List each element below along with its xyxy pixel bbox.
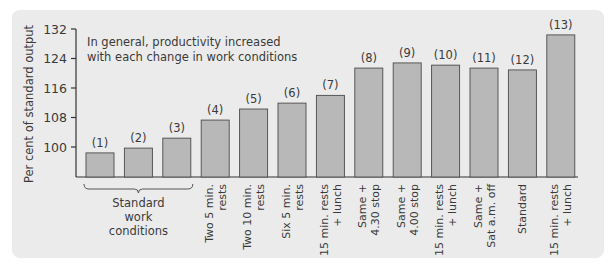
bar-label: (3) <box>169 121 185 135</box>
category-label: Same + <box>395 184 408 228</box>
category-label: Same + <box>472 184 485 228</box>
category-label: Two 5 min. <box>203 184 216 244</box>
bar-label: (6) <box>284 86 300 100</box>
bar <box>470 68 498 177</box>
bar-label: (2) <box>130 131 146 145</box>
category-label: Sat a.m. off <box>485 184 498 248</box>
group-label: Standard <box>112 196 164 210</box>
bar <box>201 120 229 177</box>
bar <box>508 70 536 177</box>
bar-label: (10) <box>434 48 458 62</box>
y-tick-label: 132 <box>43 22 67 37</box>
bar <box>163 138 191 177</box>
annotation-text: In general, productivity increasedwith e… <box>87 35 297 64</box>
bar <box>547 35 575 177</box>
bar-label: (4) <box>207 103 223 117</box>
bar-label: (12) <box>511 53 535 67</box>
category-label: Standard <box>516 184 529 234</box>
category-label: + lunch <box>331 184 344 227</box>
bar <box>355 68 383 177</box>
category-label: + lunch <box>561 184 574 227</box>
bar-label: (8) <box>361 51 377 65</box>
category-label: Two 10 min. <box>241 184 254 251</box>
bar-label: (7) <box>322 78 338 92</box>
bar-label: (11) <box>472 51 496 65</box>
y-axis-label: Per cent of standard output <box>22 24 36 183</box>
category-label: 15 min. rests <box>548 184 561 256</box>
bar-label: (1) <box>92 136 108 150</box>
bar <box>124 148 152 177</box>
category-label: Same + <box>356 184 369 228</box>
y-tick-label: 124 <box>43 51 67 66</box>
bar <box>393 63 421 177</box>
category-label: 15 min. rests <box>433 184 446 256</box>
group-brace <box>84 184 193 193</box>
category-label: rests <box>293 184 306 211</box>
bar-label: (5) <box>245 92 261 106</box>
category-label: rests <box>254 184 267 211</box>
group-label: work <box>124 210 152 224</box>
category-label: rests <box>216 184 229 211</box>
chart-annotation: In general, productivity increasedwith e… <box>87 35 297 65</box>
category-label: 4.00 stop <box>408 184 421 236</box>
category-label: 4.30 stop <box>369 184 382 236</box>
category-label: + lunch <box>446 184 459 227</box>
bar <box>240 109 268 177</box>
bar <box>86 153 114 177</box>
bar <box>278 103 306 177</box>
category-label: 15 min. rests <box>318 184 331 256</box>
y-tick-label: 100 <box>43 140 67 155</box>
category-label: Six 5 min. <box>280 184 293 239</box>
y-tick-label: 108 <box>43 110 67 125</box>
bar <box>432 65 460 177</box>
group-label: conditions <box>109 224 168 238</box>
bar-label: (9) <box>399 46 415 60</box>
bar <box>316 95 344 177</box>
y-tick-label: 116 <box>43 81 67 96</box>
bar-label: (13) <box>549 18 573 32</box>
